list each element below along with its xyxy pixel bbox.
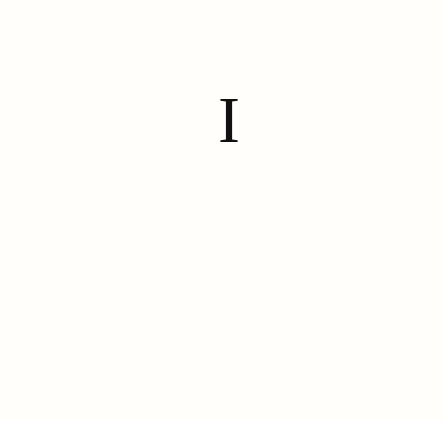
- document-page: I: [0, 0, 445, 421]
- chapter-numeral-heading: I: [0, 80, 445, 160]
